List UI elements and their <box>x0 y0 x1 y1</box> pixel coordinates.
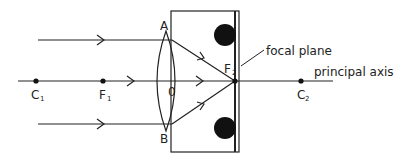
focal-plane-pointer <box>241 50 264 66</box>
label-f2-sub: 2 <box>232 69 236 77</box>
label-b: B <box>160 132 168 146</box>
label-o: 0 <box>168 85 176 99</box>
dark-circle-top <box>214 24 236 46</box>
label-f1-sub: 1 <box>107 95 111 103</box>
label-principal-axis: principal axis <box>314 65 394 79</box>
label-c1-sub: 1 <box>40 95 44 103</box>
dark-circle-bottom <box>214 117 236 139</box>
point-f2 <box>232 78 237 83</box>
label-c2-sub: 2 <box>305 95 309 103</box>
point-f1 <box>100 78 105 83</box>
label-f1: F <box>99 88 106 102</box>
label-c1: C <box>31 88 39 102</box>
label-focal-plane: focal plane <box>266 44 332 58</box>
arrow-icon <box>197 52 204 60</box>
point-c1 <box>33 78 38 83</box>
lens-diagram: A B 0 C 1 F 1 F 2 C 2 focal plane princi… <box>0 0 399 160</box>
label-f2: F <box>224 62 231 76</box>
point-c2 <box>298 78 303 83</box>
label-a: A <box>160 19 169 33</box>
